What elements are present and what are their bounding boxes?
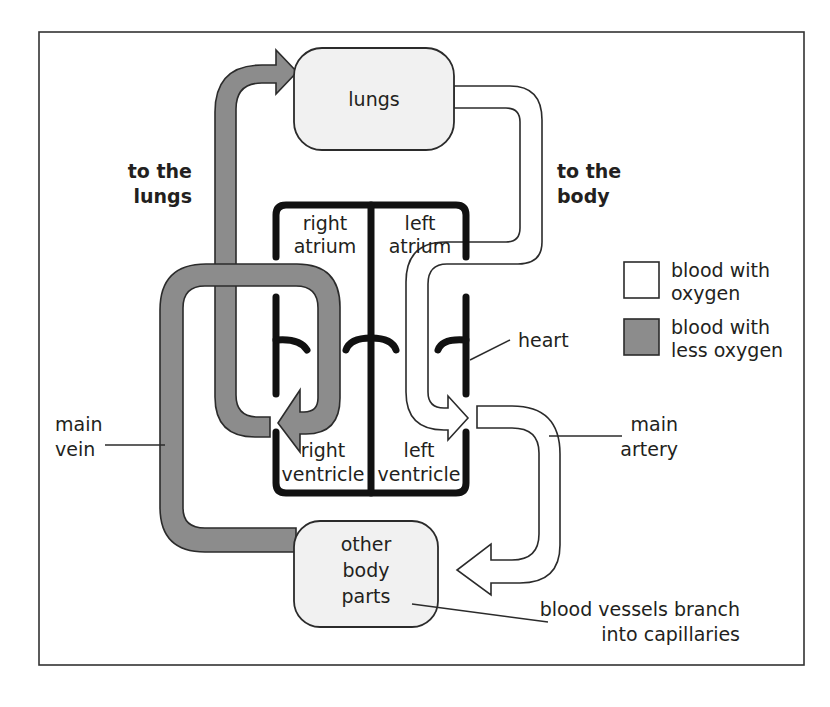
pulmonary-artery-tube <box>215 50 297 437</box>
legend: blood with oxygen blood with less oxygen <box>624 259 783 361</box>
capillaries-label-1: blood vessels branch <box>540 598 740 620</box>
main-vein-tube <box>160 264 340 552</box>
to-the-body-label-2: body <box>557 185 610 207</box>
other-body-parts-label-3: parts <box>342 585 391 607</box>
capillaries-label-2: into capillaries <box>601 623 740 645</box>
legend-oxygenated-label-1: blood with <box>671 259 770 281</box>
main-artery-label-2: artery <box>620 438 678 460</box>
main-artery-label-1: main <box>631 413 678 435</box>
legend-deoxygenated-label-2: less oxygen <box>671 339 783 361</box>
circulation-diagram: lungs other body parts right atrium left… <box>0 0 830 707</box>
main-vein-label-1: main <box>55 413 102 435</box>
right-atrium-label-2: atrium <box>294 235 357 257</box>
main-artery-tube <box>457 406 560 595</box>
heart-leader-line <box>470 340 510 360</box>
left-atrium-label-1: left <box>405 212 436 234</box>
left-ventricle-label-1: left <box>404 439 435 461</box>
other-body-parts-label-1: other <box>341 533 392 555</box>
legend-swatch-oxygenated <box>624 262 659 298</box>
to-the-lungs-label-1: to the <box>128 160 192 182</box>
left-atrium-label-2: atrium <box>389 235 452 257</box>
right-ventricle-label-1: right <box>301 439 346 461</box>
to-the-body-label-1: to the <box>557 160 621 182</box>
lungs-label: lungs <box>348 88 399 110</box>
to-the-lungs-label-2: lungs <box>134 185 192 207</box>
legend-oxygenated-label-2: oxygen <box>671 282 740 304</box>
right-ventricle-label-2: ventricle <box>282 463 365 485</box>
left-ventricle-label-2: ventricle <box>378 463 461 485</box>
legend-swatch-deoxygenated <box>624 319 659 355</box>
heart-label: heart <box>518 329 569 351</box>
main-vein-label-2: vein <box>55 438 95 460</box>
other-body-parts-label-2: body <box>343 559 390 581</box>
right-atrium-label-1: right <box>303 212 348 234</box>
legend-deoxygenated-label-1: blood with <box>671 316 770 338</box>
